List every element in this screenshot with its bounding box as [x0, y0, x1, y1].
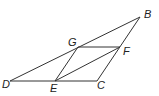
segment-ef — [55, 47, 120, 81]
geometry-diagram: B G F D E C — [0, 0, 159, 96]
label-f: F — [123, 45, 131, 57]
label-b: B — [144, 8, 151, 20]
label-c: C — [97, 79, 105, 91]
label-g: G — [68, 36, 77, 48]
label-e: E — [50, 82, 58, 94]
segment-cb — [97, 17, 140, 81]
segment-ge — [55, 47, 78, 81]
label-d: D — [2, 78, 10, 90]
segment-db — [10, 17, 140, 81]
